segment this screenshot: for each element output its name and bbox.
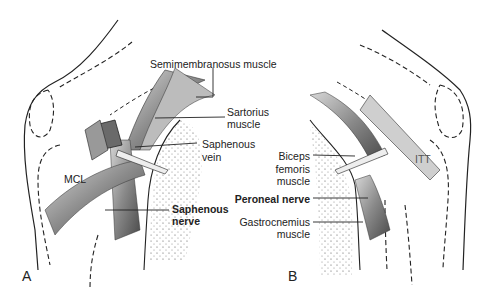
label-mcl: MCL (64, 173, 86, 185)
panel-b-drawing (310, 30, 471, 285)
label-saphenous-nerve-line2: nerve (172, 215, 200, 227)
panel-letter-b: B (288, 268, 297, 284)
panel-letter-a: A (22, 268, 31, 284)
label-sartorius-muscle-line1: Sartorius (227, 106, 269, 118)
label-saphenous-vein-line1: Saphenous (202, 138, 255, 150)
label-semimembranosus-muscle: Semimembranosus muscle (150, 58, 277, 70)
label-gastrocnemius-muscle-line1: Gastrocnemius (220, 216, 310, 228)
label-peroneal-nerve: Peroneal nerve (220, 193, 310, 205)
label-biceps-femoris-line1: Biceps (258, 150, 310, 162)
label-saphenous-vein-line2: vein (202, 151, 221, 163)
label-sartorius-muscle-line2: muscle (227, 118, 260, 130)
label-itt: ITT (415, 153, 431, 165)
label-biceps-femoris-line2: femoris (258, 163, 310, 175)
label-biceps-femoris-line3: muscle (258, 175, 310, 187)
label-gastrocnemius-muscle-line2: muscle (220, 228, 310, 240)
